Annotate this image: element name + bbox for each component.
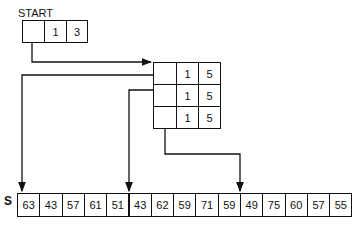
row1-pointer-arrow (22, 75, 160, 191)
table-pointer-cell (153, 84, 177, 107)
start-pointer-cell (22, 20, 45, 43)
array-cell: 43 (129, 193, 152, 217)
table-cell: 5 (198, 106, 221, 129)
start-cell: 1 (44, 20, 67, 43)
table-pointer-cell (153, 106, 177, 129)
table-cell: 1 (176, 62, 199, 85)
array-cell: 49 (240, 193, 263, 217)
array-cell: 43 (39, 193, 62, 217)
array-cell: 59 (218, 193, 241, 217)
start-cell: 3 (66, 20, 88, 43)
array-cell: 60 (285, 193, 308, 217)
table-cell: 1 (176, 106, 199, 129)
array-cell: 59 (173, 193, 196, 217)
table-cell: 1 (176, 84, 199, 107)
start-label: START (18, 7, 53, 19)
array-cell: 71 (195, 193, 218, 217)
array-cell: 57 (62, 193, 85, 217)
array-cell: 62 (151, 193, 174, 217)
array-cell: 55 (329, 193, 352, 217)
array-cell: 75 (262, 193, 285, 217)
array-cell: 51 (106, 193, 129, 217)
table-cell: 5 (198, 62, 221, 85)
table-pointer-cell (153, 62, 177, 85)
array-label: S (4, 194, 12, 208)
array-cell: 63 (17, 193, 40, 217)
array-cell: 61 (84, 193, 107, 217)
array-cell: 57 (307, 193, 330, 217)
table-cell: 5 (198, 84, 221, 107)
